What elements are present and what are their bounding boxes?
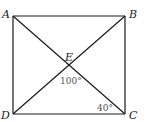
point-label-d: D bbox=[0, 109, 10, 122]
geometry-diagram: A B C D E 100° 40° bbox=[0, 0, 147, 122]
point-label-c: C bbox=[129, 109, 138, 122]
point-label-b: B bbox=[128, 8, 137, 21]
angle-label-dec: 100° bbox=[60, 76, 82, 86]
point-label-a: A bbox=[1, 8, 10, 21]
point-label-e: E bbox=[64, 51, 73, 64]
angle-label-ecd: 40° bbox=[97, 103, 113, 113]
